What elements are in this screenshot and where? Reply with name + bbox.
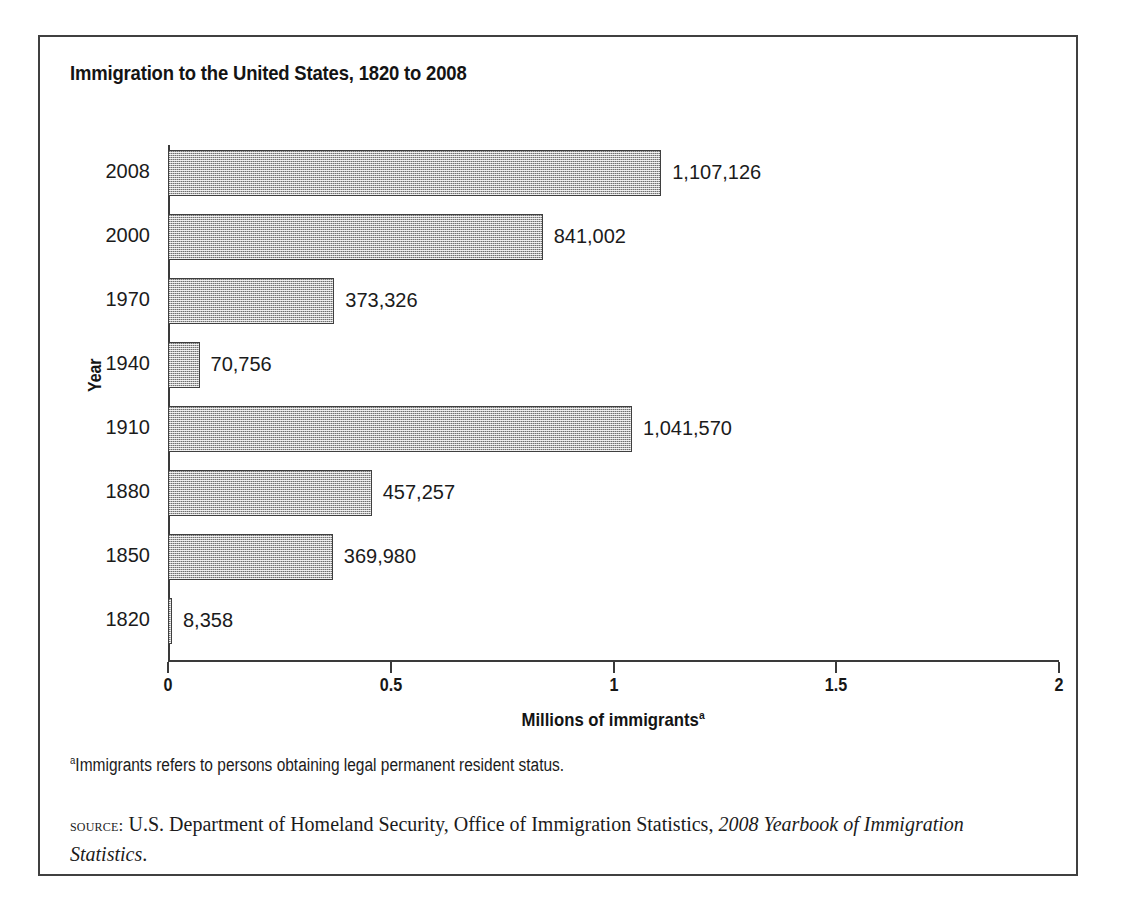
y-axis-tick-label: 2000: [106, 224, 151, 247]
y-axis-title: Year: [85, 359, 106, 392]
x-axis-tick: [1058, 662, 1060, 673]
x-axis-tick-label: 2: [1055, 674, 1064, 696]
bar-value-label: 457,257: [383, 481, 455, 504]
bar-row: 18208,358: [168, 598, 1059, 644]
bar-row: 20081,107,126: [168, 150, 1059, 196]
x-axis-tick: [613, 662, 615, 673]
source-roman-text: U.S. Department of Homeland Security, Of…: [124, 813, 719, 835]
source-end-period: .: [142, 843, 147, 865]
bar: [168, 406, 632, 452]
figure-frame: Immigration to the United States, 1820 t…: [38, 35, 1078, 876]
x-axis-tick: [835, 662, 837, 673]
chart-title: Immigration to the United States, 1820 t…: [70, 61, 467, 85]
x-axis-tick: [167, 662, 169, 673]
y-axis-tick-label: 1850: [106, 544, 151, 567]
bar: [168, 278, 334, 324]
x-axis-tick-label: 1: [609, 674, 618, 696]
bar-value-label: 8,358: [183, 609, 233, 632]
y-axis-tick-label: 1970: [106, 288, 151, 311]
bar-value-label: 70,756: [211, 353, 272, 376]
x-axis-tick-label: 0: [164, 674, 173, 696]
bar-row: 2000841,002: [168, 214, 1059, 260]
bar-value-label: 1,041,570: [643, 417, 732, 440]
x-axis-title-text: Millions of immigrants: [522, 709, 699, 730]
bar: [168, 470, 372, 516]
bar-value-label: 369,980: [344, 545, 416, 568]
bar-row: 1880457,257: [168, 470, 1059, 516]
footnote: aImmigrants refers to persons obtaining …: [70, 755, 645, 776]
bar-value-label: 841,002: [554, 225, 626, 248]
x-axis-title: Millions of immigrantsa: [168, 709, 1059, 731]
y-axis-tick-label: 1910: [106, 416, 151, 439]
bar-row: 1970373,326: [168, 278, 1059, 324]
x-axis-title-superscript: a: [699, 708, 705, 721]
bar: [168, 342, 200, 388]
bar: [168, 598, 172, 644]
bar-row: 19101,041,570: [168, 406, 1059, 452]
bar-value-label: 1,107,126: [672, 161, 761, 184]
x-axis-tick-label: 0.5: [380, 674, 402, 696]
bar: [168, 150, 661, 196]
plot-area: 20081,107,1262000841,0021970373,32619407…: [168, 150, 1059, 662]
bar-value-label: 373,326: [345, 289, 417, 312]
y-axis-tick-label: 1820: [106, 608, 151, 631]
y-axis-tick-label: 1880: [106, 480, 151, 503]
bar-row: 194070,756: [168, 342, 1059, 388]
x-axis-tick-label: 1.5: [825, 674, 847, 696]
footnote-text: Immigrants refers to persons obtaining l…: [75, 755, 564, 775]
bar: [168, 534, 333, 580]
y-axis-tick-label: 1940: [106, 352, 151, 375]
y-axis-tick-label: 2008: [106, 160, 151, 183]
bar: [168, 214, 543, 260]
bar-row: 1850369,980: [168, 534, 1059, 580]
source-label: source:: [70, 816, 124, 835]
source-note: source: U.S. Department of Homeland Secu…: [70, 809, 1045, 870]
x-axis-tick: [390, 662, 392, 673]
